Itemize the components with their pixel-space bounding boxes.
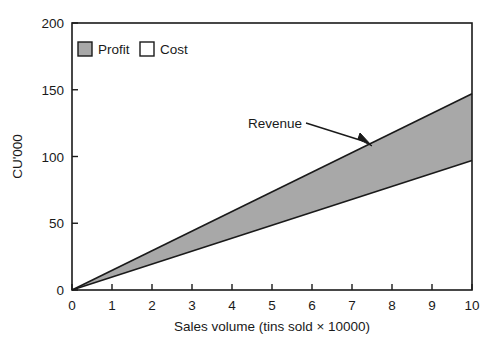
y-axis-title: CU'000 [10, 134, 25, 179]
x-axis-tick-labels: 0 1 2 3 4 5 6 7 8 9 10 [68, 298, 479, 313]
chart-canvas: 0 50 100 150 200 0 1 2 3 4 5 6 7 8 9 10 … [0, 0, 503, 340]
x-tick-label-4: 4 [228, 298, 236, 313]
x-axis-title: Sales volume (tins sold × 10000) [174, 319, 370, 334]
x-tick-label-0: 0 [68, 298, 76, 313]
x-tick-label-3: 3 [188, 298, 196, 313]
x-tick-label-5: 5 [268, 298, 276, 313]
y-tick-label-100: 100 [41, 150, 64, 165]
legend-swatch-profit [78, 42, 92, 56]
y-tick-label-150: 150 [41, 83, 64, 98]
x-tick-label-7: 7 [348, 298, 356, 313]
y-axis-tick-labels: 0 50 100 150 200 [41, 16, 64, 298]
x-tick-label-2: 2 [148, 298, 156, 313]
x-tick-label-10: 10 [464, 298, 479, 313]
y-tick-label-50: 50 [49, 216, 64, 231]
x-tick-label-6: 6 [308, 298, 316, 313]
y-tick-label-200: 200 [41, 16, 64, 31]
revenue-annotation-label: Revenue [248, 116, 302, 131]
x-tick-label-9: 9 [428, 298, 436, 313]
y-tick-label-0: 0 [56, 283, 64, 298]
legend-label-cost: Cost [160, 42, 188, 57]
x-tick-label-1: 1 [108, 298, 116, 313]
legend-swatch-cost [140, 42, 154, 56]
chart-figure: 0 50 100 150 200 0 1 2 3 4 5 6 7 8 9 10 … [0, 0, 503, 340]
x-tick-label-8: 8 [388, 298, 396, 313]
legend-label-profit: Profit [98, 42, 130, 57]
